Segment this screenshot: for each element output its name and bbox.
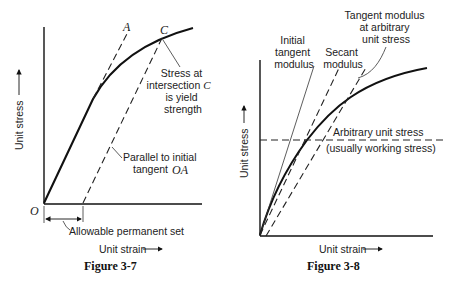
- fig7-initial-tangent-line: [93, 30, 129, 99]
- fig7-point-c-label: C: [160, 23, 169, 37]
- fig8-tangent-label: Tangent modulus at arbitrary unit stress: [345, 9, 428, 45]
- fig8-secant-label: Secant modulus: [323, 46, 363, 70]
- fig8-xlabel: Unit strain: [319, 243, 366, 255]
- fig7-parallel-ref: OA: [172, 163, 189, 177]
- fig7-set-annotation: Allowable permanent set: [69, 225, 184, 237]
- fig8-initial-tangent-line: [260, 66, 314, 235]
- fig8-arbitrary-label: Arbitrary unit stress: [333, 126, 423, 138]
- fig8-ylabel: Unit stress: [238, 128, 250, 178]
- fig8-ylabel-group: Unit stress: [238, 106, 250, 178]
- fig7-ylabel: Unit stress: [13, 100, 25, 150]
- fig7-ylabel-group: Unit stress: [13, 70, 25, 150]
- fig8-initial-label: Initial tangent modulus: [274, 34, 314, 70]
- fig7-origin-label: O: [30, 204, 39, 218]
- figure-3-8: Initial tangent modulus Secant modulus T…: [238, 9, 443, 273]
- fig7-caption: Figure 3-7: [84, 259, 137, 273]
- diagram-canvas: O A C Stress at intersection C is yield …: [0, 0, 449, 286]
- fig7-xlabel: Unit strain: [99, 243, 146, 255]
- figure-3-7: O A C Stress at intersection C is yield …: [13, 20, 213, 273]
- fig8-working-label: (usually working stress): [326, 142, 436, 154]
- fig7-stress-strain-curve: [44, 28, 193, 203]
- fig7-parallel-annotation-2: tangent: [133, 163, 168, 175]
- fig7-yield-leader: [163, 40, 180, 67]
- fig7-yield-annotation: Stress at intersection C is yield streng…: [147, 67, 214, 115]
- fig8-caption: Figure 3-8: [307, 259, 360, 273]
- fig7-parallel-annotation: Parallel to initial: [123, 151, 197, 163]
- fig7-point-a-label: A: [122, 20, 131, 34]
- fig7-parallel-leader: [112, 147, 122, 158]
